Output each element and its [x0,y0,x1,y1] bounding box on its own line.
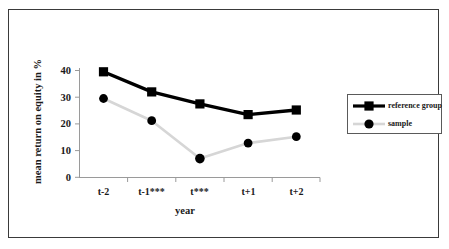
data-point-reference-group-3 [244,110,253,119]
data-point-sample-1 [147,116,156,125]
data-point-sample-2 [195,154,205,164]
data-point-reference-group-0 [99,67,108,76]
y-tick-label-30: 30 [49,92,71,103]
legend-marker-square-icon [352,97,386,115]
legend-label-sample: sample [388,119,412,129]
data-point-reference-group-1 [147,87,156,96]
data-point-reference-group-2 [195,99,204,108]
x-tick-label-t-2: t-2 [79,186,128,197]
x-axis-ticks [128,178,320,183]
data-point-reference-group-4 [292,105,301,114]
legend-entry-reference-group: reference group [348,97,443,115]
chart-legend: reference group sample [347,94,442,134]
y-tick-label-20: 20 [49,118,71,129]
legend-entry-sample: sample [348,115,443,133]
data-point-sample-0 [99,94,108,103]
y-tick-label-40: 40 [49,65,71,76]
x-tick-label-t: t*** [175,186,224,197]
y-tick-label-10: 10 [49,145,71,156]
legend-label-reference-group: reference group [388,101,442,111]
legend-marker-circle-icon [352,115,386,133]
data-point-sample-4 [292,132,301,141]
data-point-sample-3 [244,139,253,148]
x-tick-label-t-1: t-1*** [127,186,176,197]
x-axis-title: year [60,205,310,216]
x-tick-label-t1: t+1 [224,186,273,197]
y-axis-title: mean return on equity in % [32,52,43,192]
chart-figure: 40 30 20 10 0 t-2 t-1*** t*** t+1 t+2 me… [0,0,449,249]
x-tick-label-t2: t+2 [272,186,321,197]
y-tick-label-0: 0 [49,172,71,183]
